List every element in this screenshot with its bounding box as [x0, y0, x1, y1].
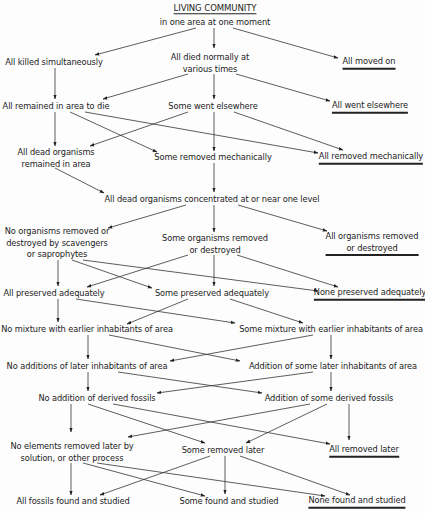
- node-allremlater: All removed later: [329, 443, 399, 458]
- arrow: [103, 74, 188, 99]
- node-text: All fossils found and studied: [16, 495, 129, 507]
- node-remained: All remained in area to die: [3, 100, 110, 112]
- arrow: [157, 372, 313, 393]
- node-killed: All killed simultaneously: [5, 56, 103, 68]
- node-somefound: Some found and studied: [179, 495, 278, 507]
- node-noadd: No additions of later inhabitants of are…: [7, 360, 168, 372]
- node-text: All went elsewhere: [332, 99, 408, 111]
- node-allwent: All went elsewhere: [332, 99, 408, 114]
- arrow: [55, 168, 104, 193]
- node-text: No elements removed later by: [10, 440, 133, 452]
- node-text: All dead organisms: [17, 146, 94, 158]
- arrow: [128, 404, 310, 437]
- arrow: [127, 299, 188, 324]
- node-noderived: No addition of derived fossils: [38, 392, 155, 404]
- node-text: None found and studied: [308, 494, 405, 506]
- arrow: [246, 404, 327, 443]
- node-allfound: All fossils found and studied: [16, 495, 129, 507]
- node-text: All removed mechanically: [319, 150, 423, 162]
- arrow: [113, 404, 330, 444]
- node-somewent: Some went elsewhere: [168, 100, 257, 112]
- node-nonepres: None preserved adequately: [314, 286, 425, 301]
- node-someremlater: Some removed later: [182, 444, 265, 456]
- arrow: [97, 463, 325, 496]
- node-text: No additions of later inhabitants of are…: [7, 360, 168, 372]
- arrow: [230, 299, 303, 323]
- node-someorgrem: Some organisms removedor destroyed: [162, 232, 268, 255]
- arrow: [87, 255, 188, 287]
- node-nonefound: None found and studied: [308, 494, 405, 509]
- arrow: [234, 112, 343, 150]
- node-somemix: Some mixture with earlier inhabitants of…: [239, 323, 423, 335]
- node-text: All preserved adequately: [3, 287, 104, 299]
- arrow: [170, 335, 313, 361]
- node-text: Addition of some derived fossils: [265, 392, 394, 404]
- diagram-title: LIVING COMMUNITY: [174, 2, 257, 14]
- node-moved: All moved on: [343, 55, 396, 70]
- node-concentrated: All dead organisms concentrated at or ne…: [104, 193, 319, 205]
- node-text: All killed simultaneously: [5, 56, 103, 68]
- node-nomix: No mixture with earlier inhabitants of a…: [1, 323, 173, 335]
- node-text: Some removed mechanically: [154, 151, 271, 163]
- node-allorgrem: All organisms removedor destroyed: [326, 230, 419, 256]
- arrow: [76, 299, 235, 323]
- node-text: Some preserved adequately: [155, 287, 269, 299]
- arrow: [85, 112, 318, 153]
- node-text: or saprophytes: [5, 248, 110, 260]
- node-text: None preserved adequately: [314, 286, 425, 298]
- node-text: No organisms removed or: [5, 225, 110, 237]
- node-text: No addition of derived fossils: [38, 392, 155, 404]
- node-text: All remained in area to die: [3, 100, 110, 112]
- node-text: All removed later: [329, 443, 399, 455]
- node-text: various times: [171, 62, 249, 74]
- node-text: Addition of some later inhabitants of ar…: [249, 360, 417, 372]
- node-died: All died normally atvarious times: [171, 51, 249, 74]
- diagram-subtitle: in one area at one moment: [160, 16, 270, 28]
- node-allremmech: All removed mechanically: [319, 150, 423, 165]
- arrow: [108, 205, 186, 228]
- node-text: All moved on: [343, 55, 396, 67]
- node-text: or destroyed: [162, 243, 268, 255]
- arrow: [90, 112, 188, 146]
- node-text: All organisms removed: [326, 230, 419, 242]
- node-text: Some removed later: [182, 444, 265, 456]
- node-text: Some mixture with earlier inhabitants of…: [239, 323, 423, 335]
- diagram-canvas: LIVING COMMUNITY in one area at one mome…: [0, 0, 425, 513]
- node-text: All dead organisms concentrated at or ne…: [104, 193, 319, 205]
- arrow: [118, 372, 262, 393]
- node-text: Some went elsewhere: [168, 100, 257, 112]
- node-someadd: Addition of some later inhabitants of ar…: [249, 360, 417, 372]
- node-text: or destroyed: [326, 242, 419, 254]
- node-someremmech: Some removed mechanically: [154, 151, 271, 163]
- arrow: [236, 74, 330, 101]
- arrow: [109, 335, 240, 361]
- node-noelements: No elements removed later bysolution, or…: [10, 440, 133, 463]
- arrow: [238, 205, 327, 231]
- node-text: All died normally at: [171, 51, 249, 63]
- node-text: solution, or other process: [10, 451, 133, 463]
- node-noorgrem: No organisms removed ordestroyed by scav…: [5, 225, 110, 260]
- node-text: remained in area: [17, 157, 94, 169]
- node-somederived: Addition of some derived fossils: [265, 392, 394, 404]
- node-deadremained: All dead organismsremained in area: [17, 146, 94, 169]
- node-somepres: Some preserved adequately: [155, 287, 269, 299]
- node-text: No mixture with earlier inhabitants of a…: [1, 323, 173, 335]
- arrow: [240, 456, 350, 495]
- node-allpres: All preserved adequately: [3, 287, 104, 299]
- node-text: destroyed by scavengers: [5, 236, 110, 248]
- node-text: Some organisms removed: [162, 232, 268, 244]
- node-text: Some found and studied: [179, 495, 278, 507]
